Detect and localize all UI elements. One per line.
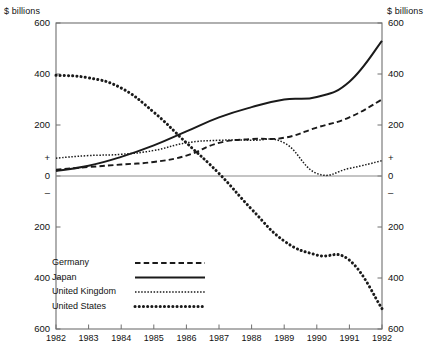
x-tick-label-1992: 1992	[364, 333, 400, 343]
series-line-united-states	[56, 75, 382, 308]
legend-label-japan: Japan	[52, 272, 77, 282]
x-tick-label-1989: 1989	[266, 333, 302, 343]
y-tick-label-left-0: 600	[26, 17, 50, 28]
x-tick-label-1985: 1985	[136, 333, 172, 343]
x-tick-label-1990: 1990	[299, 333, 335, 343]
series-line-japan	[56, 41, 382, 171]
x-tick-label-1988: 1988	[234, 333, 270, 343]
plot-area	[0, 0, 426, 352]
y-tick-label-left-3: +	[26, 152, 50, 163]
x-tick-label-1984: 1984	[103, 333, 139, 343]
y-tick-label-right-7: 400	[388, 272, 412, 283]
y-tick-label-right-5: –	[388, 187, 412, 198]
y-tick-label-left-2: 200	[26, 119, 50, 130]
y-tick-label-right-0: 600	[388, 17, 412, 28]
y-tick-label-right-4: 0	[388, 170, 412, 181]
x-tick-label-1986: 1986	[168, 333, 204, 343]
chart-container: $ billions $ billions 600400200+0–200400…	[0, 0, 426, 352]
series-line-united-kingdom	[56, 139, 382, 175]
y-tick-label-right-6: 200	[388, 221, 412, 232]
y-tick-label-left-6: 200	[26, 221, 50, 232]
y-tick-label-left-8: 600	[26, 323, 50, 334]
y-tick-label-right-2: 200	[388, 119, 412, 130]
y-tick-label-left-4: 0	[26, 170, 50, 181]
series-line-germany	[56, 100, 382, 170]
legend-label-germany: Germany	[52, 257, 89, 267]
data-series-group	[56, 41, 382, 309]
legend-label-united-states: United States	[52, 301, 106, 311]
legend-label-united-kingdom: United Kingdom	[52, 286, 116, 296]
x-tick-label-1987: 1987	[201, 333, 237, 343]
y-tick-label-right-1: 400	[388, 68, 412, 79]
x-tick-label-1982: 1982	[38, 333, 74, 343]
y-tick-label-left-7: 400	[26, 272, 50, 283]
y-tick-label-left-5: –	[26, 187, 50, 198]
x-tick-label-1983: 1983	[71, 333, 107, 343]
y-tick-label-left-1: 400	[26, 68, 50, 79]
y-tick-label-right-3: +	[388, 152, 412, 163]
legend-line-samples	[135, 263, 205, 307]
x-tick-label-1991: 1991	[331, 333, 367, 343]
y-tick-label-right-8: 600	[388, 323, 412, 334]
